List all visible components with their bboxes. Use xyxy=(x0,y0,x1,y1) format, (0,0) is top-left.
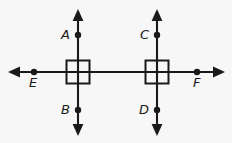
point-label-E: E xyxy=(29,76,37,89)
point-label-F: F xyxy=(193,76,200,89)
figure-canvas xyxy=(0,0,232,143)
point-B xyxy=(75,107,81,113)
point-C xyxy=(154,32,160,38)
point-label-B: B xyxy=(61,103,70,116)
point-label-D: D xyxy=(139,103,149,116)
arrowhead-up-right-line xyxy=(152,9,163,21)
point-D xyxy=(154,107,160,113)
arrowhead-right xyxy=(213,67,225,78)
arrowhead-left xyxy=(8,67,20,78)
arrowhead-down-left-line xyxy=(73,124,84,136)
arrowhead-down-right-line xyxy=(152,124,163,136)
geometry-figure: A B C D E F xyxy=(0,0,232,143)
point-A xyxy=(75,32,81,38)
point-label-C: C xyxy=(140,28,149,41)
arrowhead-up-left-line xyxy=(73,9,84,21)
point-label-A: A xyxy=(61,28,70,41)
